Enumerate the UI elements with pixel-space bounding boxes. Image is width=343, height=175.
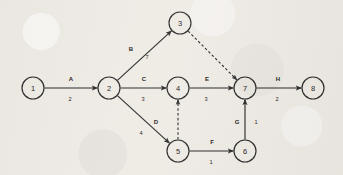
node-5[interactable]: 5 xyxy=(167,140,189,162)
node-label-6: 6 xyxy=(243,147,247,156)
node-6[interactable]: 6 xyxy=(234,140,256,162)
edge-2-to-3 xyxy=(117,31,171,80)
node-3[interactable]: 3 xyxy=(169,12,191,34)
edge-activity-label-H: H xyxy=(276,76,280,82)
nodes-layer: 12345678 xyxy=(22,12,324,162)
edge-duration-label-D: 4 xyxy=(139,130,142,136)
edge-activity-label-C: C xyxy=(142,76,147,82)
node-label-8: 8 xyxy=(311,84,315,93)
edge-activity-label-F: F xyxy=(210,139,214,145)
node-label-4: 4 xyxy=(176,84,180,93)
edge-activity-label-B: B xyxy=(129,46,134,52)
edge-activity-label-A: A xyxy=(69,76,74,82)
edge-duration-label-B: 7 xyxy=(145,54,148,60)
node-4[interactable]: 4 xyxy=(167,77,189,99)
node-2[interactable]: 2 xyxy=(98,77,120,99)
edge-duration-label-C: 3 xyxy=(141,96,144,102)
edge-duration-label-E: 3 xyxy=(204,96,207,102)
node-label-1: 1 xyxy=(31,84,35,93)
node-7[interactable]: 7 xyxy=(234,77,256,99)
edge-activity-label-G: G xyxy=(235,119,240,125)
edge-activity-label-D: D xyxy=(154,119,159,125)
node-label-3: 3 xyxy=(178,19,182,28)
edge-3-to-7-dummy xyxy=(188,31,237,80)
network-diagram-canvas: 12345678 A2B7C3D4E3F1G1H2 xyxy=(0,0,343,175)
edge-duration-label-H: 2 xyxy=(275,96,278,102)
node-label-5: 5 xyxy=(176,147,180,156)
edge-duration-label-F: 1 xyxy=(209,159,212,165)
edge-duration-label-G: 1 xyxy=(254,119,257,125)
node-label-7: 7 xyxy=(243,84,247,93)
edge-activity-label-E: E xyxy=(205,76,209,82)
network-diagram-svg: 12345678 A2B7C3D4E3F1G1H2 xyxy=(0,0,343,175)
node-label-2: 2 xyxy=(107,84,111,93)
edge-2-to-5 xyxy=(117,96,169,143)
node-1[interactable]: 1 xyxy=(22,77,44,99)
node-8[interactable]: 8 xyxy=(302,77,324,99)
edge-duration-label-A: 2 xyxy=(68,96,71,102)
